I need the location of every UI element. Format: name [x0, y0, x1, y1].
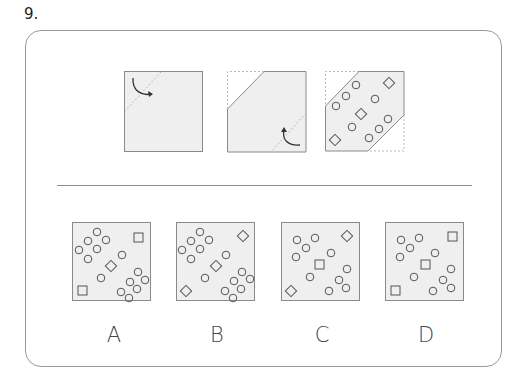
option-d-panel[interactable] [385, 222, 465, 302]
option-a-label[interactable]: A [94, 323, 134, 347]
divider [57, 185, 472, 186]
option-b-label[interactable]: B [197, 323, 237, 347]
option-a-panel[interactable] [72, 222, 152, 302]
fold-step-2 [227, 71, 307, 153]
option-c-label[interactable]: C [302, 323, 342, 347]
option-d-label[interactable]: D [406, 323, 446, 347]
fold-step-1 [124, 71, 204, 153]
option-b-panel[interactable] [176, 222, 256, 302]
fold-step-3 [325, 71, 405, 153]
question-number: 9. [24, 5, 38, 23]
option-c-panel[interactable] [281, 222, 361, 302]
